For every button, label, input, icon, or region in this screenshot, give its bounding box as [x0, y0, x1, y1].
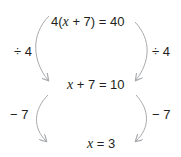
- operation-left-1: ÷ 4: [14, 44, 32, 59]
- operation-right-2: − 7: [152, 107, 170, 122]
- arrow-right-step2: [136, 95, 147, 141]
- arrow-left-step1: [36, 16, 49, 80]
- equation-text: 4(: [51, 14, 63, 29]
- equation-step-1: 4(x + 7) = 40: [51, 14, 124, 30]
- equation-step-2: x + 7 = 10: [67, 77, 125, 93]
- arrow-left-step2: [36, 95, 48, 141]
- equation-text: + 7 = 10: [73, 77, 124, 92]
- operation-right-1: ÷ 4: [152, 44, 170, 59]
- operation-left-2: − 7: [10, 107, 28, 122]
- equation-text: + 7) = 40: [69, 14, 125, 29]
- equation-step-3: x = 3: [87, 136, 115, 152]
- arrow-right-step1: [135, 22, 147, 80]
- equation-text: = 3: [93, 136, 115, 151]
